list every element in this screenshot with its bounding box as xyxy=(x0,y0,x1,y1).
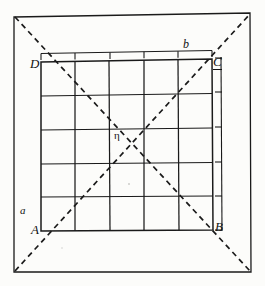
label-corner-C: C xyxy=(213,55,222,70)
grid-h-2 xyxy=(41,128,212,130)
grid-horizontal-lines xyxy=(41,94,213,198)
inner-square-ABCD xyxy=(41,59,213,231)
scan-artifacts xyxy=(61,183,130,249)
right-scale-baseline xyxy=(221,57,222,231)
label-center-eta: η xyxy=(114,130,120,141)
grid-h-4 xyxy=(41,196,213,197)
right-tick-scale xyxy=(215,57,222,231)
grid-h-1 xyxy=(41,94,212,97)
label-diagonal-a: a xyxy=(20,205,26,216)
artifact-dot-1 xyxy=(128,183,130,185)
label-corner-B: B xyxy=(215,220,223,233)
geometry-diagram xyxy=(0,0,265,286)
label-corner-A: A xyxy=(31,223,39,236)
grid-h-3 xyxy=(41,163,213,165)
grid-v-4 xyxy=(178,60,179,231)
figure-canvas: D C A B b a η xyxy=(0,0,265,286)
grid-vertical-lines xyxy=(75,60,179,231)
label-corner-D: D xyxy=(30,57,39,70)
grid-v-2 xyxy=(109,61,110,231)
artifact-dot-2 xyxy=(61,247,62,248)
label-side-b: b xyxy=(183,38,189,50)
top-tick-scale xyxy=(41,51,212,61)
